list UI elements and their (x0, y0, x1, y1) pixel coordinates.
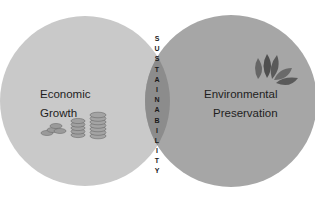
letter: U (152, 44, 162, 54)
economic-label-line1: Economic (40, 89, 91, 101)
letter: A (152, 105, 162, 115)
letter: L (152, 136, 162, 146)
environmental-preservation-circle (145, 15, 315, 187)
letter: I (152, 85, 162, 95)
environmental-label-line1: Environmental (204, 89, 278, 101)
letter: T (152, 156, 162, 166)
letter: T (152, 65, 162, 75)
letter: B (152, 116, 162, 126)
letter: I (152, 146, 162, 156)
letter: N (152, 95, 162, 105)
environmental-label-line2: Preservation (213, 108, 278, 120)
letter: S (152, 34, 162, 44)
letter: Y (152, 166, 162, 176)
letter: A (152, 75, 162, 85)
economic-label-line2: Growth (40, 108, 77, 120)
sustainability-label: S U S T A I N A B I L I T Y (152, 34, 162, 177)
letter: I (152, 126, 162, 136)
letter: S (152, 54, 162, 64)
economic-growth-circle (0, 16, 170, 186)
